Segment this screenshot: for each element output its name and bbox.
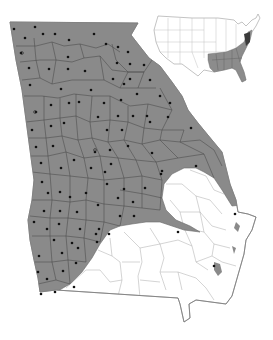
record-dot <box>43 210 46 213</box>
record-dot <box>38 255 41 258</box>
record-dot <box>50 104 53 107</box>
record-dot <box>123 83 126 86</box>
record-dot <box>132 115 135 118</box>
record-dot <box>97 204 100 207</box>
record-dot <box>129 78 132 81</box>
record-dot <box>190 127 193 130</box>
record-dot <box>85 192 88 195</box>
record-dot <box>177 231 180 234</box>
record-dot <box>195 165 198 168</box>
record-dot <box>53 239 56 242</box>
record-dot <box>149 121 152 124</box>
inset-us-map <box>154 14 260 82</box>
record-dot <box>73 286 76 289</box>
record-dot <box>24 37 27 40</box>
record-dot <box>104 171 107 174</box>
record-dot <box>129 63 132 66</box>
record-dot <box>68 39 71 42</box>
record-dot <box>146 115 149 118</box>
record-dot <box>132 201 135 204</box>
record-dot <box>112 78 115 81</box>
record-dot <box>127 51 130 54</box>
record-dot <box>41 181 44 184</box>
record-dot <box>106 183 109 186</box>
record-dot <box>63 122 66 125</box>
record-dot <box>234 213 237 216</box>
record-dot <box>61 252 64 255</box>
record-dot <box>161 170 164 173</box>
record-dot <box>133 215 136 218</box>
record-dot <box>90 167 93 170</box>
record-dot <box>76 211 79 214</box>
record-dot <box>40 293 43 296</box>
record-dot <box>116 62 119 65</box>
record-dot <box>69 196 72 199</box>
record-dot <box>37 271 40 274</box>
record-dot <box>62 270 65 273</box>
record-dot <box>50 125 53 128</box>
record-dot <box>105 43 108 46</box>
record-dot <box>54 291 57 294</box>
record-dot <box>59 210 62 213</box>
record-dot <box>103 102 106 105</box>
record-dot <box>84 70 87 73</box>
record-dot <box>167 116 170 119</box>
record-dot <box>77 247 80 250</box>
record-dot <box>31 129 34 132</box>
record-dot <box>73 159 76 162</box>
record-dot <box>160 173 163 176</box>
record-dot <box>121 129 124 132</box>
record-dot <box>98 228 101 231</box>
record-dot <box>159 95 162 98</box>
record-dot <box>46 278 49 281</box>
record-dot <box>78 101 81 104</box>
record-dot <box>34 26 37 29</box>
record-dot <box>144 187 147 190</box>
record-dot <box>213 265 216 268</box>
record-dot <box>120 99 123 102</box>
record-dot <box>47 192 50 195</box>
record-dot <box>93 33 96 36</box>
record-dot <box>106 129 109 132</box>
record-dot <box>40 162 43 165</box>
record-dot <box>108 233 111 236</box>
record-dot <box>149 79 152 82</box>
record-dot <box>33 221 36 224</box>
record-dot <box>117 115 120 118</box>
record-dot <box>127 145 130 148</box>
record-dot <box>54 33 57 36</box>
record-dot <box>67 56 70 59</box>
record-dot <box>52 145 55 148</box>
record-dot <box>95 233 98 236</box>
record-dot <box>35 146 38 149</box>
record-dot <box>117 46 120 49</box>
record-dot <box>67 68 70 71</box>
record-dot <box>96 241 99 244</box>
record-dot <box>42 33 45 36</box>
record-dot <box>110 163 113 166</box>
record-dot <box>123 188 126 191</box>
record-dot <box>71 242 74 245</box>
record-dot <box>117 197 120 200</box>
record-dot <box>169 102 172 105</box>
record-dot <box>109 149 112 152</box>
record-dot <box>136 93 139 96</box>
record-dot <box>97 116 100 119</box>
record-dot <box>119 215 122 218</box>
record-dot <box>60 167 63 170</box>
record-dot <box>68 102 71 105</box>
record-dot <box>59 191 62 194</box>
record-dot <box>151 152 154 155</box>
record-dot <box>48 68 51 71</box>
record-dot <box>58 223 61 226</box>
record-dot <box>46 228 49 231</box>
record-dot <box>13 28 16 31</box>
record-dot <box>79 228 82 231</box>
record-dot <box>90 89 93 92</box>
record-dot <box>143 64 146 67</box>
record-dot <box>28 67 31 70</box>
distribution-map: Georgia distribution map <box>0 0 273 340</box>
record-dot <box>60 88 63 91</box>
record-dot <box>29 84 32 87</box>
record-dot <box>75 262 78 265</box>
